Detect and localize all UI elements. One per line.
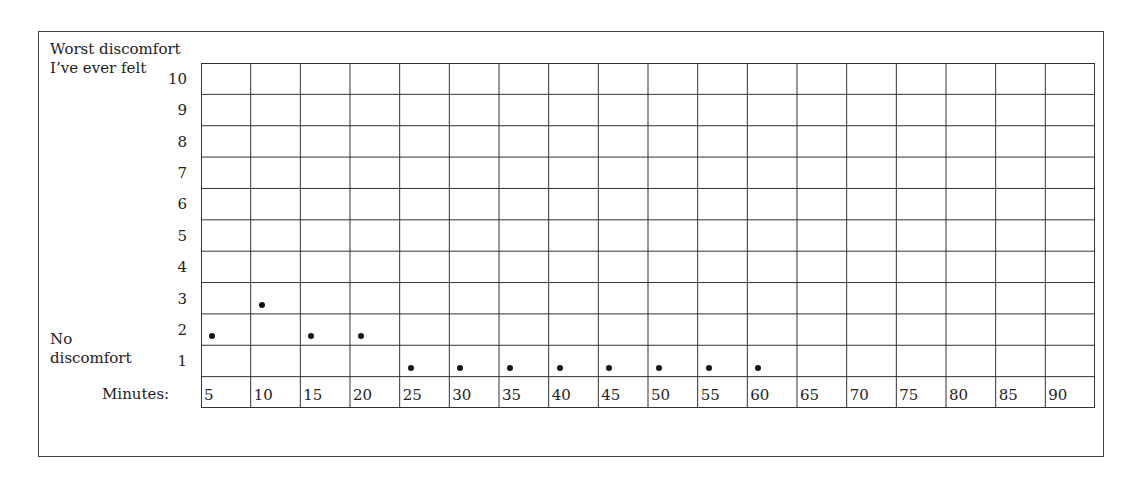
y-tick-label: 4: [157, 258, 187, 276]
x-tick-label: 50: [651, 386, 670, 404]
y-tick-label: 6: [157, 195, 187, 213]
y-top-label-line2: I’ve ever felt: [50, 59, 146, 77]
x-axis-label: Minutes:: [102, 385, 169, 403]
y-tick-label: 1: [157, 352, 187, 370]
x-tick-label: 15: [303, 386, 322, 404]
x-tick-label: 55: [701, 386, 720, 404]
y-bottom-label-line1: No: [50, 330, 72, 348]
x-tick-label: 65: [800, 386, 819, 404]
y-tick-label: 7: [157, 164, 187, 182]
data-point: [408, 365, 414, 371]
y-tick-label: 9: [157, 101, 187, 119]
y-bottom-label-line2: discomfort: [50, 349, 132, 367]
x-tick-label: 45: [601, 386, 620, 404]
data-point: [557, 365, 563, 371]
x-tick-label: 30: [452, 386, 471, 404]
x-tick-label: 40: [552, 386, 571, 404]
grid-lines: [201, 63, 1095, 408]
data-point: [656, 365, 662, 371]
x-tick-label: 80: [949, 386, 968, 404]
y-tick-label: 5: [157, 227, 187, 245]
x-tick-label: 20: [353, 386, 372, 404]
y-tick-label: 3: [157, 290, 187, 308]
x-tick-label: 25: [403, 386, 422, 404]
data-point: [706, 365, 712, 371]
data-point: [507, 365, 513, 371]
x-tick-label: 5: [204, 386, 214, 404]
y-tick-label: 2: [157, 321, 187, 339]
x-tick-label: 75: [899, 386, 918, 404]
x-tick-label: 70: [850, 386, 869, 404]
y-tick-label: 10: [157, 70, 187, 88]
y-top-label-line1: Worst discomfort: [50, 40, 181, 58]
x-tick-label: 35: [502, 386, 521, 404]
rating-grid: 51015202530354045505560657075808590: [201, 63, 1095, 408]
y-tick-label: 8: [157, 133, 187, 151]
x-tick-label: 90: [1048, 386, 1067, 404]
x-tick-label: 60: [750, 386, 769, 404]
x-tick-label: 10: [254, 386, 273, 404]
x-tick-label: 85: [999, 386, 1018, 404]
data-point: [259, 302, 265, 308]
